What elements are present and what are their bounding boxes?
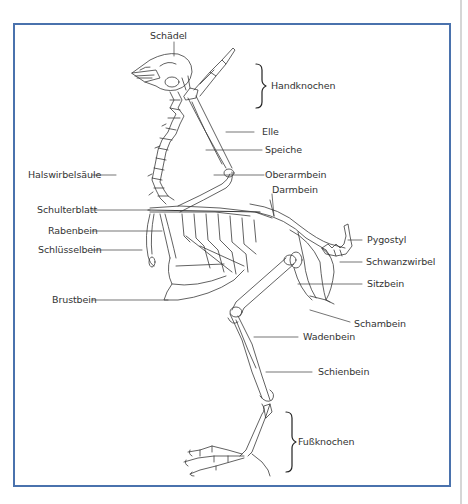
label-skull: Schädel: [150, 30, 187, 42]
leg-drawing: [228, 314, 274, 401]
label-clavicle: Schlüsselbein: [38, 244, 102, 256]
label-coracoid: Rabenbein: [48, 225, 98, 237]
label-ischium: Sitzbein: [367, 278, 404, 290]
brace-fussknochen: [286, 412, 296, 472]
label-tail-vertebrae: Schwanzwirbel: [366, 256, 435, 268]
skull-drawing: [132, 54, 192, 91]
label-tibia: Schienbein: [318, 366, 369, 378]
label-foot-bones: Fußknochen: [298, 436, 354, 448]
brace-handknochen: [256, 64, 266, 108]
label-sternum: Brustbein: [52, 294, 97, 306]
label-ilium: Darmbein: [272, 184, 318, 196]
label-cervical-spine: Halswirbelsäule: [28, 169, 101, 181]
label-ulna: Elle: [262, 126, 279, 138]
label-pygostyle: Pygostyl: [367, 234, 406, 246]
neck-vertebrae-drawing: [148, 92, 184, 204]
label-hand-bones: Handknochen: [271, 80, 335, 92]
label-radius: Speiche: [265, 144, 302, 156]
label-pubis: Schambein: [354, 318, 406, 330]
label-scapula: Schulterblatt: [37, 204, 97, 216]
label-fibula: Wadenbein: [303, 331, 355, 343]
label-humerus: Oberarmbein: [265, 169, 327, 181]
foot-drawing: [184, 404, 272, 476]
torso-drawing: [146, 200, 345, 274]
sternum-drawing: [164, 258, 244, 300]
wing-drawing: [178, 48, 235, 212]
pelvis-drawing: [290, 230, 334, 304]
tail-drawing: [322, 224, 352, 256]
